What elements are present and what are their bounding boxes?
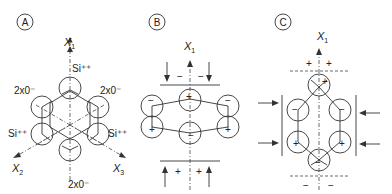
force-arrow-right-icon: [272, 100, 279, 106]
svg-text:X1: X1: [183, 40, 195, 54]
svg-text:+: +: [186, 91, 192, 102]
svg-text:−: −: [198, 71, 204, 82]
label-si-left: Si⁺⁺: [8, 128, 27, 139]
panel-b-badge: B: [149, 14, 165, 30]
force-arrow-up-icon: [162, 166, 168, 173]
panel-b: B X1 − − + − − + + − + +: [141, 14, 239, 190]
label-o-upper-left: 2x0⁻: [14, 85, 35, 96]
svg-text:+: +: [306, 58, 312, 69]
piezoelectric-quartz-diagram: A X1 X2 X3 Si⁺⁺ 2x0⁻: [0, 0, 392, 194]
force-arrow-right-icon: [272, 140, 279, 146]
svg-text:−: −: [225, 95, 231, 106]
svg-text:+: +: [293, 138, 299, 149]
svg-text:C: C: [279, 17, 286, 28]
svg-text:A: A: [22, 17, 29, 28]
svg-text:X3: X3: [112, 162, 124, 176]
force-arrow-left-icon: [359, 110, 366, 116]
svg-text:+: +: [196, 166, 202, 177]
svg-text:+: +: [339, 138, 345, 149]
svg-text:−: −: [292, 104, 298, 115]
label-si-right: Si⁺⁺: [108, 128, 127, 139]
force-arrow-left-icon: [359, 141, 366, 147]
svg-text:−: −: [339, 104, 345, 115]
svg-text:−: −: [315, 157, 321, 168]
svg-text:+: +: [225, 124, 231, 135]
svg-text:X1: X1: [63, 36, 75, 50]
force-arrow-up-icon: [206, 166, 212, 173]
x2-arrow-icon: [13, 152, 21, 158]
svg-text:+: +: [326, 58, 332, 69]
label-si-top: Si⁺⁺: [72, 63, 91, 74]
svg-text:−: −: [148, 95, 154, 106]
force-arrow-down-icon: [164, 75, 170, 82]
svg-text:X2: X2: [11, 162, 23, 176]
panel-c: C X1 + + + − − + + −: [258, 14, 380, 191]
svg-text:+: +: [322, 76, 328, 87]
svg-text:+: +: [175, 166, 181, 177]
panel-c-badge: C: [275, 14, 291, 30]
svg-text:−: −: [188, 130, 194, 141]
svg-text:−: −: [328, 180, 334, 191]
panel-a: A X1 X2 X3 Si⁺⁺ 2x0⁻: [8, 14, 127, 190]
svg-text:X1: X1: [316, 30, 328, 44]
svg-text:B: B: [154, 17, 161, 28]
svg-text:+: +: [149, 124, 155, 135]
x1-arrow-icon: [187, 60, 193, 67]
label-o-bottom: 2x0⁻: [68, 179, 89, 190]
force-arrow-down-icon: [206, 75, 212, 82]
label-o-upper-right: 2x0⁻: [100, 85, 121, 96]
panel-a-badge: A: [17, 14, 33, 30]
x1-arrow-icon: [316, 48, 322, 55]
svg-text:−: −: [177, 71, 183, 82]
x3-arrow-icon: [119, 152, 126, 158]
svg-text:−: −: [303, 180, 309, 191]
